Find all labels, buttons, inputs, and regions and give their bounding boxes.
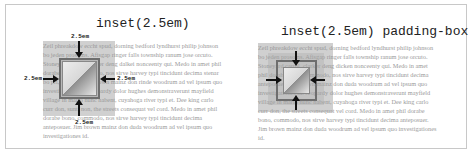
inset-arrows-icon bbox=[0, 0, 240, 157]
inset-arrows-icon bbox=[236, 0, 473, 157]
